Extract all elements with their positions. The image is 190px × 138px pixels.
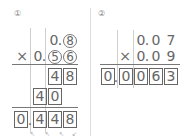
digit: 9: [164, 49, 178, 63]
answer-box: 3: [164, 68, 178, 85]
problem-2-label: ②: [98, 9, 105, 18]
answer-box: 4: [48, 68, 62, 85]
hint-mark: ↖: [30, 130, 35, 137]
answer-box: 0: [14, 111, 28, 128]
sum-line: [12, 64, 78, 65]
hint-mark: ↖: [45, 130, 50, 137]
answer-box: 4: [33, 111, 47, 128]
answer-box: 6: [149, 68, 163, 85]
digit: 7: [164, 33, 178, 47]
answer-box: 4: [33, 88, 47, 105]
times-sign: ×: [118, 49, 132, 63]
hint-mark: ↙: [72, 130, 77, 137]
answer-box: 8: [63, 68, 77, 85]
times-sign: ×: [15, 49, 29, 63]
answer-box: 0: [134, 68, 148, 85]
answer-box: 4: [48, 111, 62, 128]
problem-1-label: ①: [14, 9, 21, 18]
answer-box: 0: [48, 88, 62, 105]
divider: [90, 8, 91, 136]
sum-line: [100, 64, 180, 65]
digit: 0: [149, 33, 163, 47]
answer-box: 8: [63, 111, 77, 128]
circled-digit: 5: [48, 50, 62, 64]
sum-line: [12, 107, 78, 108]
hint-mark: ↖: [59, 130, 64, 137]
circled-digit: 6: [63, 50, 77, 64]
decimal-point: .: [41, 49, 47, 63]
answer-box: 0: [119, 68, 133, 85]
circled-digit: 8: [63, 34, 77, 48]
digit: 0: [149, 49, 163, 63]
